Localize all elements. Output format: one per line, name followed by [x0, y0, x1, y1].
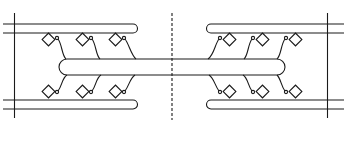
diamond-node [76, 33, 89, 46]
diamond-node [223, 85, 236, 98]
right-bottom-rail [207, 100, 345, 109]
left-top-rail [3, 24, 138, 33]
right-top-nodes [208, 33, 302, 59]
diamond-node [289, 85, 302, 98]
right-top-rail [207, 24, 345, 33]
left-assembly [3, 13, 138, 118]
diamond-node [42, 85, 55, 98]
left-top-nodes [42, 33, 136, 59]
diamond-node [256, 33, 269, 46]
diagram-canvas [0, 0, 347, 149]
left-bottom-nodes [42, 75, 135, 98]
left-bottom-rail [3, 100, 138, 109]
right-assembly [207, 13, 345, 118]
right-bottom-nodes [209, 75, 302, 98]
diamond-node [256, 85, 269, 98]
diamond-node [109, 85, 122, 98]
diamond-node [289, 33, 302, 46]
diamond-node [223, 33, 236, 46]
diamond-node [42, 33, 55, 46]
central-bar [59, 59, 285, 75]
diamond-node [76, 85, 89, 98]
diamond-node [109, 33, 122, 46]
